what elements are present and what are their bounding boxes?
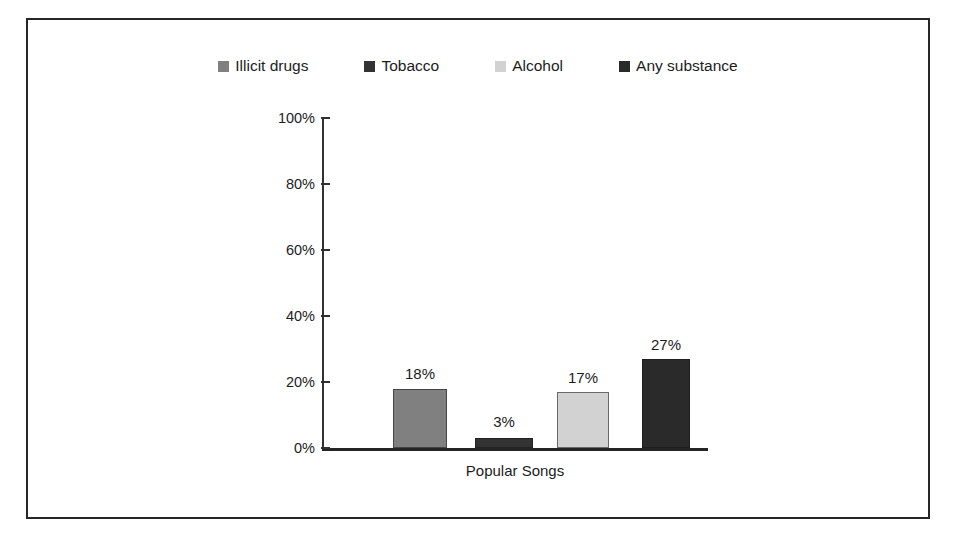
y-axis-tick-label: 20% <box>286 375 321 389</box>
x-axis-category-label: Popular Songs <box>322 462 708 479</box>
legend-item-label: Illicit drugs <box>235 58 308 74</box>
y-axis-tick-label: 0% <box>294 441 321 455</box>
y-axis-tick-label: 60% <box>286 243 321 257</box>
y-axis-tick-60: 60% <box>260 243 330 257</box>
legend-item-alcohol[interactable]: Alcohol <box>495 58 563 74</box>
y-axis-tick-100: 100% <box>260 111 330 125</box>
bar-group-any-substance: 27% <box>642 118 690 448</box>
bar-group-illicit-drugs: 18% <box>393 118 447 448</box>
legend-swatch-icon <box>364 61 375 72</box>
chart-legend: Illicit drugs Tobacco Alcohol Any substa… <box>28 58 928 74</box>
chart-frame: Illicit drugs Tobacco Alcohol Any substa… <box>26 18 930 519</box>
bars-layer: 18% 3% 17% 27% <box>324 118 708 448</box>
legend-item-label: Alcohol <box>512 58 563 74</box>
y-axis-tick-label: 100% <box>278 111 321 125</box>
plot-area: 100% 80% 60% 40% 20% 0% 18% <box>322 118 712 452</box>
bar-tobacco[interactable] <box>475 438 533 448</box>
bar-any-substance[interactable] <box>642 359 690 448</box>
bar-alcohol[interactable] <box>557 392 609 448</box>
legend-swatch-icon <box>218 61 229 72</box>
y-axis-tick-label: 40% <box>286 309 321 323</box>
legend-item-tobacco[interactable]: Tobacco <box>364 58 439 74</box>
bar-value-label: 3% <box>493 414 515 430</box>
bar-value-label: 27% <box>651 337 681 353</box>
legend-item-label: Any substance <box>636 58 738 74</box>
legend-swatch-icon <box>619 61 630 72</box>
y-axis-tick-0: 0% <box>260 441 330 455</box>
legend-item-label: Tobacco <box>381 58 439 74</box>
bar-value-label: 18% <box>405 366 435 382</box>
y-axis-tick-80: 80% <box>260 177 330 191</box>
bar-value-label: 17% <box>568 370 598 386</box>
x-axis-line <box>322 448 708 451</box>
bar-group-alcohol: 17% <box>557 118 609 448</box>
y-axis-tick-40: 40% <box>260 309 330 323</box>
bar-group-tobacco: 3% <box>475 118 533 448</box>
legend-item-any-substance[interactable]: Any substance <box>619 58 738 74</box>
legend-swatch-icon <box>495 61 506 72</box>
y-axis-tick-20: 20% <box>260 375 330 389</box>
legend-item-illicit-drugs[interactable]: Illicit drugs <box>218 58 308 74</box>
bar-illicit-drugs[interactable] <box>393 389 447 448</box>
y-axis-tick-label: 80% <box>286 177 321 191</box>
